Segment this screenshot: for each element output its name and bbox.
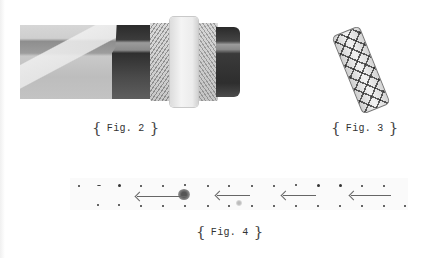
perforation-dot bbox=[78, 185, 80, 187]
left-arrow-icon bbox=[137, 196, 187, 197]
perforation-dot bbox=[97, 204, 99, 206]
ink-stain bbox=[178, 189, 190, 200]
perforation-dot bbox=[251, 205, 253, 207]
perforation-dot bbox=[383, 185, 385, 187]
tube-fold-highlight bbox=[20, 25, 128, 99]
perforation-dot bbox=[273, 205, 275, 207]
caption-brace-open: { bbox=[92, 119, 102, 137]
caption-brace-close: } bbox=[254, 223, 264, 241]
perforation-dot bbox=[383, 205, 385, 207]
perforation-dot bbox=[207, 205, 209, 207]
figure-3-caption: {Fig. 3} bbox=[331, 119, 399, 137]
perforation-dot bbox=[184, 184, 186, 186]
perforation-dot bbox=[207, 185, 209, 187]
perforation-dot bbox=[295, 184, 297, 186]
perforation-dot bbox=[140, 185, 142, 187]
perforation-dot bbox=[361, 205, 363, 207]
perforation-dot bbox=[404, 205, 406, 207]
perforation-dot bbox=[273, 185, 275, 187]
printed-wrap-right bbox=[198, 23, 218, 101]
perforation-dot bbox=[162, 205, 164, 207]
figure-3-image bbox=[331, 25, 390, 114]
caption-brace-open: { bbox=[331, 119, 341, 137]
perforation-dot bbox=[118, 184, 121, 187]
caption-text: Fig. 2 bbox=[107, 123, 145, 134]
perforation-dot bbox=[184, 205, 186, 207]
page-edge-shadow bbox=[0, 0, 5, 258]
figure-4-caption: {Fig. 4} bbox=[196, 223, 264, 241]
perforation-dot bbox=[118, 204, 120, 206]
figure-4-image bbox=[70, 178, 408, 210]
left-arrow-icon bbox=[351, 195, 391, 196]
perforation-dot bbox=[339, 184, 342, 187]
caption-brace-close: } bbox=[389, 119, 399, 137]
perforation-dot bbox=[317, 205, 319, 207]
caption-brace-open: { bbox=[196, 223, 206, 241]
left-arrow-icon bbox=[283, 195, 316, 196]
perforation-dot bbox=[228, 205, 230, 207]
tube-end-cap bbox=[216, 27, 240, 97]
figure-2-image bbox=[20, 25, 240, 100]
faint-stain bbox=[236, 200, 242, 206]
caption-text: Fig. 3 bbox=[346, 123, 384, 134]
perforation-dot bbox=[339, 205, 341, 207]
caption-text: Fig. 4 bbox=[211, 227, 249, 238]
perforation-dot bbox=[228, 185, 230, 187]
perforation-dot bbox=[295, 205, 297, 207]
caption-brace-close: } bbox=[150, 119, 160, 137]
perforation-dot bbox=[251, 185, 253, 187]
perforation-dot bbox=[361, 185, 363, 187]
figure-2-caption: {Fig. 2} bbox=[92, 119, 160, 137]
perforation-dot bbox=[162, 185, 164, 187]
white-band bbox=[170, 17, 198, 107]
printed-wrap-left bbox=[150, 23, 172, 101]
perforation-dot bbox=[317, 184, 320, 187]
left-arrow-icon bbox=[217, 195, 250, 196]
perforation-dot bbox=[97, 185, 101, 186]
perforation-dot bbox=[140, 205, 142, 207]
